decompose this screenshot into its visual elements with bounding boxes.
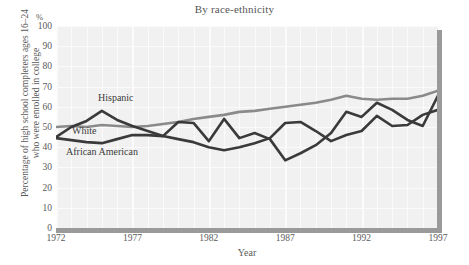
right-axis-bar [437, 30, 442, 233]
series-label-white: White [72, 125, 96, 136]
series-label-african-american: African American [66, 146, 138, 157]
x-axis-tick-labels: 197219771982198719921997 [56, 233, 438, 247]
y-tick-label: 10 [2, 203, 52, 213]
y-tick-label: 50 [2, 122, 52, 132]
x-axis-title: Year [56, 247, 438, 258]
x-tick-label: 1987 [276, 233, 295, 243]
x-tick-label: 1982 [199, 233, 218, 243]
y-tick-label: 100 [2, 21, 52, 31]
y-tick-label: 30 [2, 162, 52, 172]
y-tick-label: 40 [2, 142, 52, 152]
chart-title: By race-ethnicity [0, 3, 469, 15]
x-tick-label: 1992 [352, 233, 371, 243]
series-label-hispanic: Hispanic [98, 92, 134, 103]
y-tick-label: 90 [2, 41, 52, 51]
y-tick-label: 60 [2, 102, 52, 112]
x-tick-label: 1997 [429, 233, 448, 243]
y-axis-tick-labels: 0102030405060708090100 [0, 26, 52, 228]
x-tick-label: 1972 [47, 233, 66, 243]
series-lines [56, 26, 438, 228]
y-tick-label: 70 [2, 82, 52, 92]
y-tick-label: 80 [2, 61, 52, 71]
x-tick-label: 1977 [123, 233, 142, 243]
plot-area [56, 26, 438, 228]
y-tick-label: 0 [2, 223, 52, 233]
y-tick-label: 20 [2, 183, 52, 193]
chart-figure: By race-ethnicity Percentage of high sch… [0, 0, 469, 265]
series-line-african-american [56, 110, 438, 150]
